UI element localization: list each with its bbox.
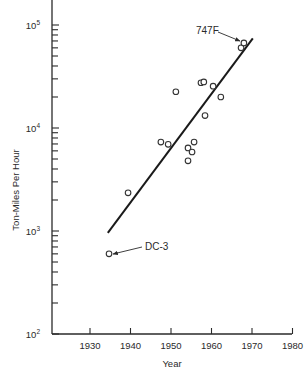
y-tick-label: 104 xyxy=(26,122,41,134)
data-points xyxy=(106,40,246,257)
x-tick-label: 1950 xyxy=(160,340,181,351)
trend-line xyxy=(108,38,253,232)
y-ticks: 102103104105 xyxy=(26,0,59,340)
y-tick-label: 103 xyxy=(26,225,41,237)
data-point xyxy=(189,149,195,155)
data-point xyxy=(241,40,247,46)
data-point xyxy=(158,139,164,145)
y-axis-label-group: Ton-Miles Per Hour xyxy=(10,149,21,230)
data-point xyxy=(210,83,216,89)
data-point xyxy=(201,79,207,85)
data-point xyxy=(173,89,179,95)
y-tick-label: 105 xyxy=(26,19,41,31)
trend-line-segment xyxy=(108,38,253,232)
annotation-arrow-icon xyxy=(218,32,240,41)
annotation-label-747f: 747F xyxy=(196,25,219,36)
data-point xyxy=(125,190,131,196)
x-tick-label: 1970 xyxy=(241,340,262,351)
data-point xyxy=(218,94,224,100)
x-axis-label: Year xyxy=(162,358,181,369)
annotation-arrow-icon xyxy=(113,247,142,254)
x-tick-label: 1940 xyxy=(120,340,141,351)
x-ticks: 193019401950196019701980 xyxy=(79,328,303,351)
data-point xyxy=(202,113,208,119)
axes xyxy=(52,0,292,334)
annotation-label-dc-3: DC-3 xyxy=(145,241,169,252)
y-axis-label: Ton-Miles Per Hour xyxy=(10,149,21,230)
data-point xyxy=(185,158,191,164)
data-point xyxy=(191,139,197,145)
x-tick-label: 1930 xyxy=(79,340,100,351)
x-tick-label: 1960 xyxy=(201,340,222,351)
data-point xyxy=(165,141,171,147)
y-tick-label: 102 xyxy=(26,328,41,340)
data-point xyxy=(106,251,112,257)
x-tick-label: 1980 xyxy=(282,340,303,351)
ton-miles-per-hour-chart: Ton-Miles Per Hour Year 102103104105 193… xyxy=(0,0,305,372)
